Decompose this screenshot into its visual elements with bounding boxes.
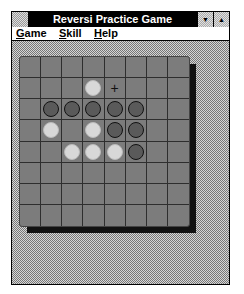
menu-game[interactable]: Game (16, 27, 47, 40)
board-cell[interactable] (168, 184, 189, 205)
board-cell[interactable] (41, 57, 62, 78)
board-cell[interactable] (83, 78, 104, 99)
menu-game-label: ame (25, 27, 47, 39)
minimize-icon: ▼ (202, 16, 209, 23)
title-bar[interactable]: Reversi Practice Game ▼ ▲ (12, 12, 229, 27)
board-cell[interactable] (83, 205, 104, 226)
minimize-button[interactable]: ▼ (197, 12, 213, 27)
board-cell[interactable] (83, 57, 104, 78)
board-cell[interactable] (41, 142, 62, 163)
game-board[interactable]: + (19, 56, 190, 227)
board-cell[interactable] (62, 120, 83, 141)
board-cell[interactable] (41, 205, 62, 226)
board-cell[interactable] (147, 142, 168, 163)
board-cell[interactable] (20, 184, 41, 205)
board-cell[interactable]: + (105, 78, 126, 99)
black-disc (107, 101, 123, 117)
board-cell[interactable] (41, 99, 62, 120)
board-cell[interactable] (83, 120, 104, 141)
board-cell[interactable] (126, 57, 147, 78)
menu-help-label: elp (102, 27, 118, 39)
board-cell[interactable] (126, 163, 147, 184)
board-cell[interactable] (105, 142, 126, 163)
board-cell[interactable] (20, 57, 41, 78)
white-disc (107, 144, 123, 160)
reversi-window: Reversi Practice Game ▼ ▲ Game Skill Hel… (11, 11, 230, 285)
board-cell[interactable] (20, 205, 41, 226)
board-cell[interactable] (168, 78, 189, 99)
menu-help-accel: H (94, 27, 102, 39)
board-cell[interactable] (62, 205, 83, 226)
black-disc (128, 122, 144, 138)
board-cell[interactable] (83, 142, 104, 163)
board-cell[interactable] (105, 57, 126, 78)
menu-skill[interactable]: Skill (59, 27, 82, 40)
black-disc (107, 122, 123, 138)
black-disc (128, 101, 144, 117)
board-cell[interactable] (62, 78, 83, 99)
menu-bar: Game Skill Help (12, 27, 229, 41)
board-cell[interactable] (105, 205, 126, 226)
board-cell[interactable] (62, 184, 83, 205)
white-disc (43, 122, 59, 138)
board-cell[interactable] (126, 78, 147, 99)
black-disc (85, 101, 101, 117)
maximize-button[interactable]: ▲ (213, 12, 229, 27)
board-cell[interactable] (41, 120, 62, 141)
board-cell[interactable] (147, 57, 168, 78)
board-cell[interactable] (168, 163, 189, 184)
board-cell[interactable] (147, 78, 168, 99)
board-cell[interactable] (20, 120, 41, 141)
menu-help[interactable]: Help (94, 27, 118, 40)
board-cell[interactable] (20, 78, 41, 99)
board-cell[interactable] (147, 99, 168, 120)
board-cell[interactable] (168, 120, 189, 141)
menu-skill-label: kill (66, 27, 81, 39)
black-disc (64, 101, 80, 117)
board-cell[interactable] (105, 120, 126, 141)
board-cell[interactable] (168, 205, 189, 226)
board-cell[interactable] (83, 99, 104, 120)
board-cell[interactable] (62, 142, 83, 163)
board-cell[interactable] (126, 184, 147, 205)
system-menu-icon[interactable] (12, 12, 29, 27)
board-cell[interactable] (83, 163, 104, 184)
board-cell[interactable] (62, 99, 83, 120)
board-cell[interactable] (168, 99, 189, 120)
board-cell[interactable] (20, 163, 41, 184)
board-cell[interactable] (62, 57, 83, 78)
board-cell[interactable] (126, 142, 147, 163)
white-disc (85, 80, 101, 96)
board-cell[interactable] (147, 120, 168, 141)
maximize-icon: ▲ (218, 16, 225, 23)
board-cell[interactable] (62, 163, 83, 184)
white-disc (85, 122, 101, 138)
crosshair-cursor-icon: + (110, 81, 118, 95)
board-cell[interactable] (168, 142, 189, 163)
board-cell[interactable] (126, 120, 147, 141)
board-cell[interactable] (105, 163, 126, 184)
board-cell[interactable] (20, 99, 41, 120)
board-cell[interactable] (41, 78, 62, 99)
board-cell[interactable] (147, 205, 168, 226)
board-cell[interactable] (168, 57, 189, 78)
black-disc (43, 101, 59, 117)
white-disc (64, 144, 80, 160)
board-cell[interactable] (41, 163, 62, 184)
board-cell[interactable] (20, 142, 41, 163)
board-cell[interactable] (41, 184, 62, 205)
board-cell[interactable] (126, 99, 147, 120)
menu-game-accel: G (16, 27, 25, 39)
window-title: Reversi Practice Game (30, 12, 195, 27)
client-area: + (12, 41, 229, 284)
board-cell[interactable] (147, 163, 168, 184)
board-cell[interactable] (83, 184, 104, 205)
board-cell[interactable] (105, 99, 126, 120)
white-disc (85, 144, 101, 160)
board-cell[interactable] (147, 184, 168, 205)
black-disc (128, 144, 144, 160)
board-cell[interactable] (105, 184, 126, 205)
board-cell[interactable] (126, 205, 147, 226)
